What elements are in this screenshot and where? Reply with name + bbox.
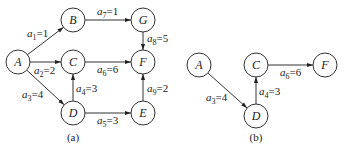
svg-text:G: G xyxy=(139,13,148,27)
edge-label-a8: a8=5 xyxy=(147,32,169,47)
node-A-panel-b: A xyxy=(187,53,211,77)
panel-caption-b: (b) xyxy=(250,131,263,144)
edge-label-a5: a5=3 xyxy=(97,114,119,129)
svg-text:F: F xyxy=(138,55,147,69)
svg-text:F: F xyxy=(320,58,329,72)
svg-text:D: D xyxy=(251,109,261,123)
edge-label-a6: a6=6 xyxy=(280,66,302,81)
edge-label-a4: a4=3 xyxy=(76,82,98,97)
edge-label-a9: a9=2 xyxy=(147,82,168,97)
node-C-panel-a: C xyxy=(61,50,85,74)
node-F-panel-a: F xyxy=(131,50,155,74)
svg-text:A: A xyxy=(194,58,203,72)
edge-label-a4: a4=3 xyxy=(259,85,281,100)
edge-label-a3: a3=4 xyxy=(206,91,228,106)
node-G-panel-a: G xyxy=(131,8,155,32)
svg-text:A: A xyxy=(13,55,22,69)
panel-caption-a: (a) xyxy=(67,131,80,144)
node-D-panel-b: D xyxy=(244,104,268,128)
svg-text:B: B xyxy=(69,13,77,27)
svg-text:C: C xyxy=(252,58,261,72)
node-E-panel-a: E xyxy=(131,101,155,125)
nodes-layer: ABCDGFEACFD xyxy=(6,8,337,128)
svg-text:D: D xyxy=(68,106,78,120)
edge-label-a3: a3=4 xyxy=(22,88,44,103)
svg-text:E: E xyxy=(138,106,147,120)
node-C-panel-b: C xyxy=(244,53,268,77)
edge-label-a7: a7=1 xyxy=(97,5,118,20)
svg-text:C: C xyxy=(69,55,78,69)
node-F-panel-b: F xyxy=(313,53,337,77)
activity-network-diagram: ABCDGFEACFD a1=1a2=2a3=4a4=3a5=3a6=6a7=1… xyxy=(0,0,346,153)
captions-layer: (a)(b) xyxy=(67,131,263,144)
node-A-panel-a: A xyxy=(6,50,30,74)
edge-label-a1: a1=1 xyxy=(27,27,48,42)
node-D-panel-a: D xyxy=(61,101,85,125)
edge-label-a6: a6=6 xyxy=(97,63,119,78)
edge-label-a2: a2=2 xyxy=(34,64,55,79)
node-B-panel-a: B xyxy=(61,8,85,32)
